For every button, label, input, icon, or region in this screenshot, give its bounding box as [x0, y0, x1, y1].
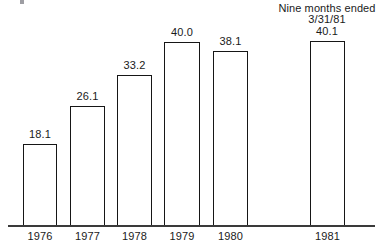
bar-value-label-1977: 26.1	[63, 91, 112, 102]
plot-area: 18.1 1976 26.1 1977 33.2 1978 40.0 1979 …	[0, 0, 381, 252]
bar-1979	[164, 42, 200, 226]
bar-1980	[213, 51, 248, 226]
annotation-nine-months: Nine months ended 3/31/81 40.1	[258, 3, 381, 37]
bar-value-label-1978: 33.2	[110, 60, 159, 71]
bar-1977	[70, 106, 105, 226]
annotation-line-3: 40.1	[258, 26, 381, 37]
bar-1976	[23, 144, 57, 226]
x-axis-line	[8, 225, 375, 227]
bar-1978	[117, 75, 152, 226]
axis-tick-label-1976: 1976	[16, 230, 64, 242]
bar-1981	[310, 41, 345, 226]
bar-value-label-1980: 38.1	[206, 36, 255, 47]
annotation-line-2: 3/31/81	[258, 14, 381, 25]
bar-chart: 18.1 1976 26.1 1977 33.2 1978 40.0 1979 …	[0, 0, 381, 252]
axis-tick-label-1978: 1978	[110, 230, 159, 242]
axis-tick-label-1977: 1977	[63, 230, 112, 242]
axis-tick-label-1981: 1981	[303, 230, 352, 242]
bar-value-label-1976: 18.1	[16, 129, 64, 140]
axis-tick-label-1980: 1980	[206, 230, 255, 242]
axis-tick-label-1979: 1979	[157, 230, 207, 242]
bar-value-label-1979: 40.0	[157, 27, 207, 38]
